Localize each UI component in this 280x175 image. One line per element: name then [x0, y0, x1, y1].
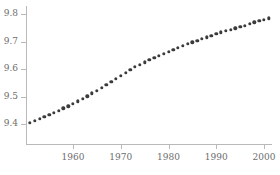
- data-point: [262, 18, 265, 21]
- data-point: [95, 89, 98, 92]
- y-tick-label-9.8: 9.8: [4, 9, 18, 18]
- data-point: [258, 19, 261, 22]
- y-tick-label-9.4: 9.4: [4, 119, 18, 128]
- data-point: [76, 99, 79, 102]
- data-point: [253, 21, 256, 24]
- data-point: [100, 86, 103, 89]
- data-point: [176, 46, 179, 49]
- data-point: [105, 83, 108, 86]
- data-point: [33, 119, 36, 122]
- data-point: [109, 80, 112, 83]
- y-tick-label-9.6: 9.6: [4, 64, 18, 73]
- data-point: [205, 36, 208, 39]
- y-tick-label-9.5: 9.5: [4, 92, 18, 101]
- x-tick-label-1960: 1960: [53, 153, 93, 162]
- y-tick-label-9.7: 9.7: [4, 37, 18, 46]
- data-point: [234, 27, 237, 30]
- data-point: [28, 121, 31, 124]
- data-point: [238, 25, 241, 28]
- data-point: [86, 95, 89, 98]
- data-point: [172, 48, 175, 51]
- data-point: [215, 32, 218, 35]
- data-point: [152, 56, 155, 59]
- data-point: [119, 74, 122, 77]
- x-tick-1960: [73, 145, 74, 149]
- x-tick-label-2000: 2000: [244, 153, 280, 162]
- data-point: [157, 54, 160, 57]
- data-point: [200, 37, 203, 40]
- x-tick-1990: [216, 145, 217, 149]
- data-point: [219, 31, 222, 34]
- data-point: [143, 60, 146, 63]
- data-point: [148, 58, 151, 61]
- data-point: [38, 117, 41, 120]
- plot-area: [26, 6, 272, 145]
- data-point: [243, 24, 246, 27]
- data-point: [186, 42, 189, 45]
- data-point: [191, 41, 194, 44]
- data-point: [114, 77, 117, 80]
- data-point: [181, 44, 184, 47]
- x-tick-label-1980: 1980: [149, 153, 189, 162]
- x-tick-1980: [169, 145, 170, 149]
- data-point: [248, 22, 251, 25]
- x-tick-2000: [264, 145, 265, 149]
- data-point: [229, 28, 232, 31]
- data-point: [224, 29, 227, 32]
- x-tick-label-1990: 1990: [196, 153, 236, 162]
- x-tick-label-1970: 1970: [101, 153, 141, 162]
- data-point: [129, 68, 132, 71]
- data-point: [62, 107, 65, 110]
- x-tick-1970: [121, 145, 122, 149]
- data-point: [133, 65, 136, 68]
- data-point: [71, 102, 74, 105]
- data-point: [267, 16, 270, 19]
- data-point: [210, 34, 213, 37]
- data-point: [124, 71, 127, 74]
- data-point: [138, 63, 141, 66]
- data-point: [47, 113, 50, 116]
- data-point: [162, 52, 165, 55]
- data-point: [57, 109, 60, 112]
- data-point: [195, 39, 198, 42]
- scatter-chart: 9.49.59.69.79.8 19601970198019902000: [0, 0, 280, 175]
- data-point: [67, 104, 70, 107]
- data-point: [52, 111, 55, 114]
- data-point: [43, 115, 46, 118]
- data-point: [90, 92, 93, 95]
- data-point: [81, 97, 84, 100]
- data-point: [167, 50, 170, 53]
